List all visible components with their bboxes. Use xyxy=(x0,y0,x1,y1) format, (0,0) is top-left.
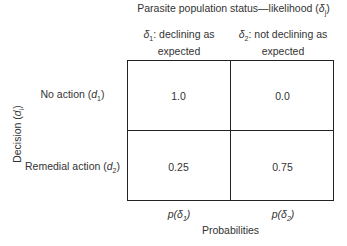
row-axis-symbol: d xyxy=(11,110,23,116)
row1-end: ) xyxy=(101,88,105,100)
title-end: ) xyxy=(326,2,330,14)
col1-label-line2: expected xyxy=(158,45,201,57)
prob1-end: ) xyxy=(187,208,191,220)
cell-r1-c2: 0.0 xyxy=(231,90,334,102)
row-axis-label: Decision (di) xyxy=(11,94,25,174)
row2-end: ) xyxy=(116,160,120,172)
row-label-2: Remedial action (d2) xyxy=(20,160,125,174)
cell-r2-c2: 0.75 xyxy=(231,161,334,173)
row-label-1: No action (d1) xyxy=(20,88,125,102)
cell-r2-c1: 0.25 xyxy=(127,161,230,173)
prob2-end: ) xyxy=(291,208,295,220)
probability-1: p(δ1) xyxy=(127,208,231,222)
probability-2: p(δ2) xyxy=(231,208,335,222)
row1-label-text: No action ( xyxy=(40,88,91,100)
col1-label-line1: : declining as xyxy=(153,28,214,40)
cell-r1-c1: 1.0 xyxy=(127,90,230,102)
prob2-prefix: p( xyxy=(272,208,281,220)
title-text: Parasite population status—likelihood ( xyxy=(137,2,319,14)
row-axis-text: Decision ( xyxy=(11,116,23,163)
row-axis-end: ) xyxy=(11,105,23,109)
probabilities-title: Probabilities xyxy=(127,224,334,236)
column-header-2: δ2: not declining as expected xyxy=(231,28,335,57)
row2-label-text: Remedial action ( xyxy=(25,160,107,172)
prob1-prefix: p( xyxy=(168,208,177,220)
column-header-1: δ1: declining as expected xyxy=(127,28,231,57)
diagram-title: Parasite population status—likelihood (δ… xyxy=(120,2,347,16)
col2-label-line2: expected xyxy=(262,45,305,57)
col2-label-line1: : not declining as xyxy=(248,28,327,40)
matrix-horizontal-divider xyxy=(127,130,334,131)
